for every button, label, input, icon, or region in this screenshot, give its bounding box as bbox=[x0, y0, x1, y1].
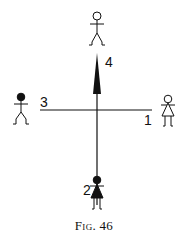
arrow-up-icon bbox=[93, 53, 101, 94]
figure-caption: Fig. 46 bbox=[0, 218, 188, 234]
left-male-figure-icon bbox=[13, 93, 29, 124]
label-right: 1 bbox=[144, 113, 152, 127]
diagram-canvas bbox=[0, 0, 188, 236]
right-female-figure-icon bbox=[161, 95, 175, 126]
label-bottom: 2 bbox=[83, 183, 91, 197]
label-top: 4 bbox=[105, 55, 113, 69]
label-left: 3 bbox=[40, 95, 48, 109]
top-male-figure-icon bbox=[89, 12, 105, 45]
